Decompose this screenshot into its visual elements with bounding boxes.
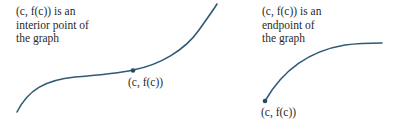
interior-caption-line-2: interior point of <box>16 19 89 33</box>
endpoint-caption-line-3: the graph <box>262 32 321 46</box>
interior-caption-line-3: the graph <box>16 32 89 46</box>
endpoint-caption-line-1: (c, f(c)) is an <box>262 5 321 19</box>
interior-caption-line-1: (c, f(c)) is an <box>16 5 89 19</box>
interior-caption: (c, f(c)) is an interior point of the gr… <box>16 5 89 46</box>
endpoint-dot <box>263 99 268 104</box>
interior-point-label: (c, f(c)) <box>128 76 163 89</box>
endpoint-curve <box>265 43 382 101</box>
endpoint-caption: (c, f(c)) is an endpoint of the graph <box>262 5 321 46</box>
endpoint-point-label: (c, f(c)) <box>261 106 296 119</box>
endpoint-caption-line-2: endpoint of <box>262 19 321 33</box>
figure-interior-vs-endpoint: (c, f(c)) is an interior point of the gr… <box>0 0 404 124</box>
interior-point-dot <box>131 68 136 73</box>
